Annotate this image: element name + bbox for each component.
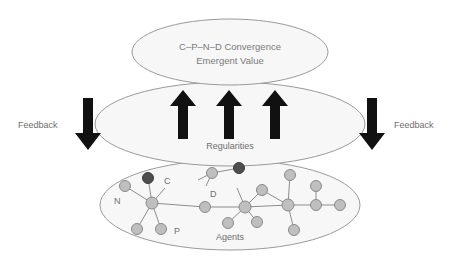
convergence-title-line2: Emergent Value bbox=[196, 55, 263, 66]
agent-node-7 bbox=[207, 168, 218, 179]
convergence-ellipse bbox=[132, 19, 328, 85]
agents-label: Agents bbox=[216, 232, 245, 242]
agent-node-12 bbox=[257, 185, 268, 196]
agent-node-4 bbox=[132, 224, 143, 235]
agent-node-9-hub bbox=[239, 201, 251, 213]
regularities-label: Regularities bbox=[206, 141, 254, 151]
agent-node-1 bbox=[120, 181, 131, 192]
agent-node-14 bbox=[285, 170, 296, 181]
agent-node-6 bbox=[200, 202, 211, 213]
agent-node-3-hub bbox=[146, 197, 158, 209]
agent-node-5 bbox=[156, 224, 167, 235]
network-label-n: N bbox=[114, 196, 121, 206]
network-label-d: D bbox=[210, 189, 217, 199]
agent-node-15 bbox=[289, 225, 300, 236]
emergence-arrows bbox=[170, 90, 288, 139]
feedback-label-left: Feedback bbox=[18, 120, 58, 130]
agent-node-10 bbox=[223, 218, 234, 229]
agent-node-2-dark bbox=[143, 173, 154, 184]
feedback-label-right: Feedback bbox=[394, 120, 434, 130]
agent-node-16 bbox=[311, 181, 322, 192]
diagram-canvas: C–P–N–D Convergence Emergent Value Regul… bbox=[0, 0, 461, 266]
agent-node-11 bbox=[252, 217, 263, 228]
agent-node-8-dark bbox=[234, 163, 245, 174]
layered-convergence-diagram: C–P–N–D Convergence Emergent Value Regul… bbox=[0, 0, 461, 266]
convergence-title-line1: C–P–N–D Convergence bbox=[179, 41, 281, 52]
agent-node-18 bbox=[335, 200, 346, 211]
agent-node-17 bbox=[311, 200, 322, 211]
network-label-p: P bbox=[174, 226, 180, 236]
network-label-c: C bbox=[164, 176, 171, 186]
agent-node-13-hub bbox=[282, 199, 294, 211]
